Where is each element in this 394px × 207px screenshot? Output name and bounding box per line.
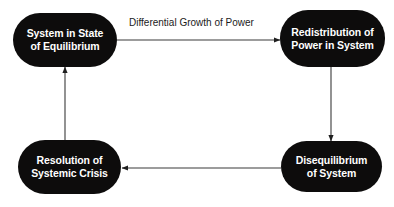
- node-resolution-of-systemic-crisis[interactable]: Resolution of Systemic Crisis: [18, 140, 121, 194]
- node-label: Disequilibrium of System: [290, 154, 374, 180]
- node-redistribution-of-power-in-system[interactable]: Redistribution of Power in System: [280, 10, 385, 67]
- diagram-canvas: System in State of Equilibrium Redistrib…: [0, 0, 394, 207]
- edge-label-differential-growth-of-power: Differential Growth of Power: [129, 17, 254, 29]
- node-label: Redistribution of Power in System: [285, 26, 380, 52]
- node-system-in-state-of-equilibrium[interactable]: System in State of Equilibrium: [13, 13, 117, 67]
- node-label: Resolution of Systemic Crisis: [25, 154, 114, 180]
- node-disequilibrium-of-system[interactable]: Disequilibrium of System: [281, 141, 382, 192]
- node-label: System in State of Equilibrium: [21, 27, 110, 53]
